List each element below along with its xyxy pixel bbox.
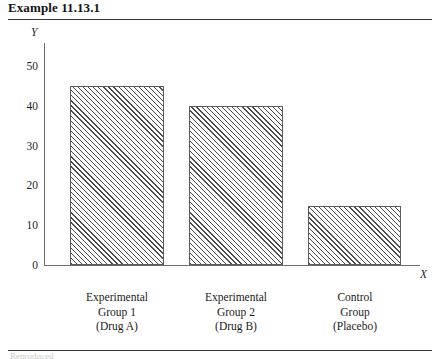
bar-experimental-group-1 [70, 86, 164, 265]
y-tick-label: 10 [0, 219, 38, 231]
category-line: Group 2 [176, 305, 296, 320]
category-line: (Placebo) [295, 319, 415, 334]
y-tick-label: 30 [0, 140, 38, 152]
x-axis-line [44, 265, 420, 266]
y-tick-label: 50 [0, 60, 38, 72]
category-label-control-group: Control Group (Placebo) [295, 290, 415, 334]
bar-chart: Y X 0 10 20 30 40 50 Experimental Group … [0, 0, 440, 359]
y-tick-label: 40 [0, 100, 38, 112]
x-axis-label: X [420, 268, 427, 280]
y-axis-line [44, 43, 45, 266]
category-line: Group [295, 305, 415, 320]
category-line: (Drug B) [176, 319, 296, 334]
category-line: Experimental [176, 290, 296, 305]
divider-bottom [8, 350, 432, 351]
category-line: (Drug A) [57, 319, 177, 334]
caption-sliver: Reproduced [10, 352, 130, 359]
category-line: Control [295, 290, 415, 305]
bar-control-group [308, 206, 401, 265]
bar-experimental-group-2 [189, 106, 283, 265]
category-line: Experimental [57, 290, 177, 305]
y-tick-label: 20 [0, 179, 38, 191]
y-tick-label: 0 [0, 259, 38, 271]
category-label-experimental-group-2: Experimental Group 2 (Drug B) [176, 290, 296, 334]
y-axis-label: Y [31, 26, 37, 38]
category-label-experimental-group-1: Experimental Group 1 (Drug A) [57, 290, 177, 334]
category-line: Group 1 [57, 305, 177, 320]
